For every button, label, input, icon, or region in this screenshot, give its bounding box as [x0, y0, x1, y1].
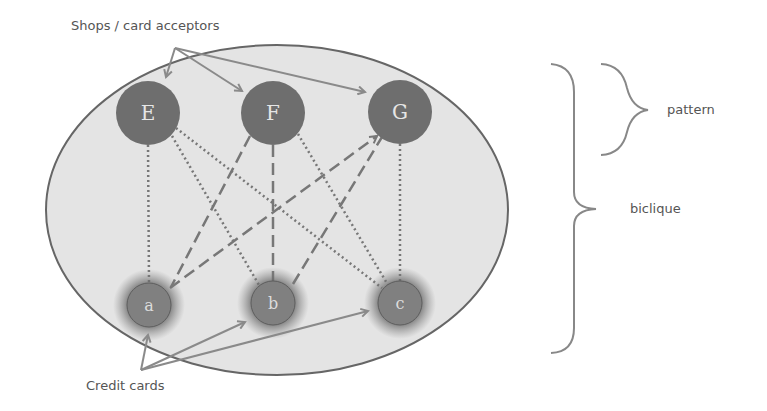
credit-cards-label: Credit cards — [86, 378, 164, 393]
pattern-label: pattern — [667, 102, 715, 117]
shop-node-G: G — [368, 80, 432, 144]
biclique-brace — [551, 64, 596, 353]
shop-node-label: E — [141, 101, 156, 125]
biclique-label: biclique — [630, 201, 681, 216]
shop-node-label: F — [266, 101, 280, 125]
card-node-label: c — [396, 294, 405, 313]
card-node-label: a — [144, 296, 154, 315]
card-node-a: a — [113, 269, 185, 341]
card-node-label: b — [268, 294, 278, 313]
shop-node-E: E — [116, 81, 180, 145]
shop-node-label: G — [392, 100, 408, 124]
pattern-brace — [601, 64, 648, 155]
shops-label: Shops / card acceptors — [71, 18, 219, 33]
card-node-c: c — [364, 267, 436, 339]
shop-node-F: F — [241, 81, 305, 145]
